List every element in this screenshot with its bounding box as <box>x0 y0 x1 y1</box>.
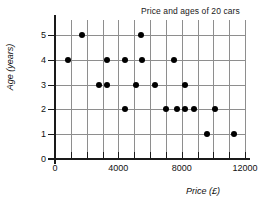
x-axis-tick <box>55 152 56 159</box>
data-point <box>138 32 144 38</box>
gridline-vertical <box>103 20 104 159</box>
x-axis-tick <box>134 152 135 159</box>
gridline-horizontal <box>55 85 245 86</box>
gridline-vertical <box>166 20 167 159</box>
gridline-vertical <box>182 20 183 159</box>
data-point <box>104 82 110 88</box>
plot-area <box>55 20 245 159</box>
gridline-vertical <box>150 20 151 159</box>
gridline-vertical <box>245 20 246 159</box>
gridline-vertical <box>87 20 88 159</box>
data-point <box>104 57 110 63</box>
chart-title: Price and ages of 20 cars <box>141 6 240 16</box>
x-axis-tick-label: 8000 <box>172 163 192 173</box>
y-axis-tick-label: 2 <box>32 105 46 114</box>
x-axis-tick <box>198 152 199 159</box>
gridline-horizontal <box>55 134 245 135</box>
y-axis-tick <box>48 85 54 86</box>
x-axis-tick <box>166 152 167 159</box>
y-axis-tick-label: 4 <box>32 56 46 65</box>
x-axis-tick <box>103 152 104 159</box>
y-axis-tick <box>48 60 54 61</box>
gridline-horizontal <box>55 60 245 61</box>
figure-bottom-edge <box>0 208 279 211</box>
gridline-vertical <box>71 20 72 159</box>
data-point <box>79 32 85 38</box>
y-axis-line <box>54 15 56 164</box>
x-axis-tick <box>71 152 72 159</box>
gridline-vertical <box>118 20 119 159</box>
y-axis-tick-label: 0 <box>32 155 46 164</box>
y-axis-tick <box>48 159 54 160</box>
y-axis-title: Age (years) <box>5 29 15 105</box>
x-axis-tick <box>245 152 246 159</box>
data-point <box>152 82 158 88</box>
x-axis-tick <box>229 152 230 159</box>
x-axis-tick <box>118 152 119 159</box>
data-point <box>171 57 177 63</box>
y-axis-tick-label: 5 <box>32 31 46 40</box>
x-axis-title: Price (£) <box>186 186 220 196</box>
x-axis-tick-label: 12000 <box>232 163 257 173</box>
y-axis-tick-labels: 012345 <box>26 0 46 211</box>
data-point <box>96 82 102 88</box>
y-axis-tick <box>48 134 54 135</box>
gridline-vertical <box>198 20 199 159</box>
data-point <box>139 57 145 63</box>
x-axis-tick-label: 4000 <box>108 163 128 173</box>
data-point <box>65 57 71 63</box>
data-point <box>182 82 188 88</box>
x-axis-tick <box>182 152 183 159</box>
x-axis-tick <box>150 152 151 159</box>
gridline-vertical <box>229 20 230 159</box>
y-axis-tick <box>48 109 54 110</box>
y-axis-tick-label: 1 <box>32 130 46 139</box>
data-point <box>133 82 139 88</box>
gridline-vertical <box>134 20 135 159</box>
x-axis-line <box>48 158 250 160</box>
x-axis-tick <box>87 152 88 159</box>
x-axis-tick <box>213 152 214 159</box>
scatter-chart-figure: Price and ages of 20 cars Age (years) Pr… <box>0 0 279 211</box>
y-axis-tick-label: 3 <box>32 81 46 90</box>
data-point <box>122 57 128 63</box>
gridline-vertical <box>213 20 214 159</box>
y-axis-tick <box>48 35 54 36</box>
x-axis-tick-label: 0 <box>52 163 57 173</box>
